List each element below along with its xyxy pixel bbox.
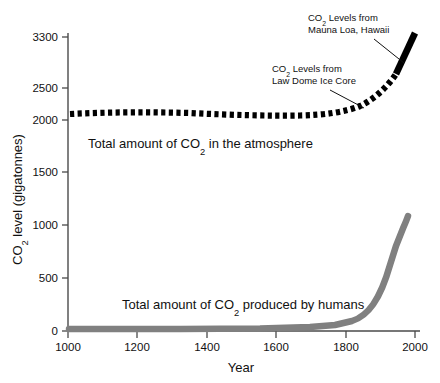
x-tick-label-1200: 1200 bbox=[124, 341, 150, 353]
annotation-mauna-loa-leader bbox=[374, 39, 404, 63]
inline-label-atmosphere-post: in the atmosphere bbox=[205, 136, 313, 151]
y-tick-label-2000: 2000 bbox=[32, 114, 58, 126]
x-tick-label-2000: 2000 bbox=[402, 341, 428, 353]
y-axis-title-pre: CO bbox=[10, 246, 25, 266]
x-tick-label-1800: 1800 bbox=[333, 341, 359, 353]
annotation-mauna-loa-post: Levels from bbox=[326, 12, 378, 23]
y-axis-title: CO2 level (gigatonnes) bbox=[10, 134, 30, 265]
annotation-law-dome-post: Levels from bbox=[290, 63, 342, 74]
inline-label-atmosphere: Total amount of CO2 in the atmosphere bbox=[88, 136, 313, 156]
inline-label-humans: Total amount of CO2 produced by humans bbox=[122, 297, 365, 317]
chart-svg: 3300 2500 2000 1500 1000 500 0 1000 1200… bbox=[0, 0, 440, 383]
x-tick-label-1000: 1000 bbox=[55, 341, 81, 353]
y-tick-label-1500: 1500 bbox=[32, 166, 58, 178]
y-tick-label-2500: 2500 bbox=[32, 82, 58, 94]
inline-label-humans-post: produced by humans bbox=[239, 297, 365, 312]
chart-figure: 3300 2500 2000 1500 1000 500 0 1000 1200… bbox=[0, 0, 440, 383]
annotation-mauna-loa-pre: CO bbox=[308, 12, 322, 23]
y-tick-label-1000: 1000 bbox=[32, 219, 58, 231]
x-tick-label-1400: 1400 bbox=[194, 341, 220, 353]
x-tick-label-1600: 1600 bbox=[263, 341, 289, 353]
y-tick-marks bbox=[62, 37, 68, 331]
y-tick-label-3300: 3300 bbox=[32, 31, 58, 43]
inline-label-atmosphere-pre: Total amount of CO bbox=[88, 136, 200, 151]
inline-label-humans-pre: Total amount of CO bbox=[122, 297, 234, 312]
x-axis-title: Year bbox=[228, 360, 255, 375]
y-axis-title-post: level (gigatonnes) bbox=[10, 134, 25, 240]
series-mauna-loa-line bbox=[396, 33, 415, 74]
y-tick-label-500: 500 bbox=[39, 272, 58, 284]
annotation-mauna-loa-line2: Mauna Loa, Hawaii bbox=[308, 24, 389, 35]
annotation-law-dome-leader bbox=[330, 90, 364, 108]
annotation-law-dome-line2: Law Dome Ice Core bbox=[272, 75, 356, 86]
y-tick-label-0: 0 bbox=[52, 325, 58, 337]
annotation-law-dome-pre: CO bbox=[272, 63, 286, 74]
